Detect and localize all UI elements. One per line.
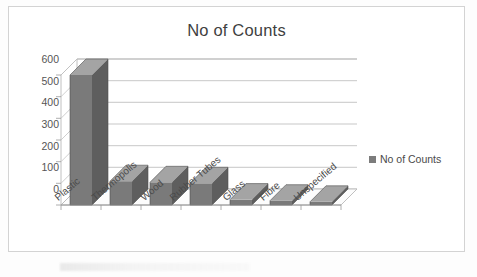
scanned-page: No of Counts 600 500 400 300 200 100 0 [0, 0, 477, 277]
legend-label: No of Counts [380, 153, 441, 165]
chart-title: No of Counts [9, 21, 464, 40]
caption-smudge [60, 263, 250, 271]
chart-3d-scene [45, 43, 365, 213]
x-axis-labels: Plastic Thermopolis Wood Rubber Tubes Gl… [49, 193, 379, 253]
legend-swatch-icon [369, 156, 376, 163]
chart-frame: No of Counts 600 500 400 300 200 100 0 [8, 6, 465, 252]
chart-legend: No of Counts [369, 153, 441, 165]
